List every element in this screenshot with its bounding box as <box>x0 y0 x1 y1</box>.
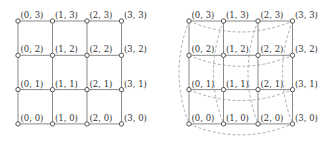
mesh-grid: (0, 3)(1, 3)(2, 3)(3, 3)(0, 2)(1, 2)(2, … <box>16 10 147 126</box>
node-label: (0, 2) <box>21 44 44 54</box>
node-label: (2, 2) <box>90 44 113 54</box>
wrap-edge-col <box>214 21 224 124</box>
node-label: (3, 2) <box>295 44 318 54</box>
node-label: (1, 1) <box>226 79 249 89</box>
node-label: (2, 3) <box>261 10 284 20</box>
node-label: (0, 3) <box>192 10 215 20</box>
grid-node: (3, 0) <box>119 113 147 126</box>
grid-edges <box>18 21 122 124</box>
node-label: (2, 1) <box>90 79 113 89</box>
node-label: (0, 2) <box>192 44 215 54</box>
wrap-edge-row <box>189 90 293 101</box>
grid-node: (3, 1) <box>290 79 318 92</box>
grid-node: (3, 2) <box>290 44 318 57</box>
node-label: (3, 1) <box>295 79 318 89</box>
torus-grid: (0, 3)(1, 3)(2, 3)(3, 3)(0, 2)(1, 2)(2, … <box>179 10 318 135</box>
node-label: (2, 2) <box>261 44 284 54</box>
node-label: (3, 1) <box>124 79 147 89</box>
node-label: (1, 1) <box>55 79 78 89</box>
node-label: (3, 0) <box>124 113 147 123</box>
node-label: (3, 2) <box>124 44 147 54</box>
node-label: (2, 3) <box>90 10 113 20</box>
wrap-edge-col <box>179 21 189 124</box>
grid-node: (3, 1) <box>119 79 147 92</box>
node-label: (2, 0) <box>261 113 284 123</box>
node-label: (3, 3) <box>295 10 318 20</box>
node-label: (1, 0) <box>226 113 249 123</box>
node-label: (1, 3) <box>226 10 249 20</box>
node-label: (1, 2) <box>55 44 78 54</box>
wrap-edge-row <box>189 21 293 32</box>
node-label: (0, 1) <box>21 79 44 89</box>
node-label: (0, 1) <box>192 79 215 89</box>
node-label: (2, 0) <box>90 113 113 123</box>
node-label: (0, 3) <box>21 10 44 20</box>
node-label: (0, 0) <box>21 113 44 123</box>
diagram-canvas: (0, 3)(1, 3)(2, 3)(3, 3)(0, 2)(1, 2)(2, … <box>0 0 329 142</box>
node-label: (2, 1) <box>261 79 284 89</box>
node-label: (1, 3) <box>55 10 78 20</box>
node-label: (0, 0) <box>192 113 215 123</box>
wrap-edge-col <box>283 21 293 124</box>
wrap-edge-row <box>189 55 293 66</box>
wrap-edge-row <box>189 124 293 135</box>
node-label: (1, 2) <box>226 44 249 54</box>
node-label: (1, 0) <box>55 113 78 123</box>
grid-node: (3, 2) <box>119 44 147 57</box>
node-label: (3, 0) <box>295 113 318 123</box>
wrap-edge-col <box>248 21 258 124</box>
grid-node: (3, 0) <box>290 113 318 126</box>
grid-node: (3, 3) <box>119 10 147 23</box>
grid-edges <box>189 21 293 124</box>
grid-node: (3, 3) <box>290 10 318 23</box>
node-label: (3, 3) <box>124 10 147 20</box>
